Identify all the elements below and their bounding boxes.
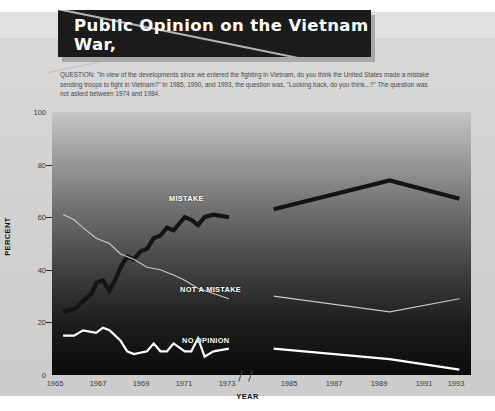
x-tick-label: 1991: [409, 379, 439, 388]
y-tick-label: 100: [24, 108, 46, 117]
x-tick-label: 1993: [441, 379, 471, 388]
y-tick-label: 20: [24, 318, 46, 327]
x-axis-title: YEAR: [0, 392, 495, 401]
x-tick-label: 1967: [83, 379, 113, 388]
y-tick-label: 40: [24, 266, 46, 275]
chart-page: Public Opinion on the Vietnam War, 1965–…: [0, 0, 495, 411]
y-axis-ticks: 100 80 60 40 20 0: [22, 112, 46, 375]
page-title: Public Opinion on the Vietnam War, 1965–…: [74, 16, 371, 57]
x-tick-label: 1987: [319, 379, 349, 388]
y-axis-title: PERCENT: [3, 217, 12, 256]
series-label-no-opinion: NO OPINION: [182, 336, 229, 345]
x-tick-label: 1989: [364, 379, 394, 388]
y-tick-label: 60: [24, 213, 46, 222]
series-label-mistake: MISTAKE: [169, 194, 204, 203]
plot-svg: [52, 112, 471, 375]
x-tick-label: 1965: [40, 379, 70, 388]
x-tick-label: 1985: [274, 379, 304, 388]
series-line-no-opinion: [274, 349, 460, 370]
x-tick-label: 1969: [126, 379, 156, 388]
series-line-mistake: [274, 180, 460, 209]
series-line-mistake: [63, 215, 229, 312]
title-block: Public Opinion on the Vietnam War, 1965–…: [58, 10, 371, 57]
series-label-not-a-mistake: NOT A MISTAKE: [180, 285, 241, 294]
plot-area: MISTAKE NOT A MISTAKE NO OPINION: [52, 112, 471, 375]
x-tick-label: 1971: [169, 379, 199, 388]
y-tick-label: 80: [24, 161, 46, 170]
question-caption: QUESTION: "In view of the developments s…: [60, 70, 438, 99]
series-line-not-a-mistake: [274, 296, 460, 312]
